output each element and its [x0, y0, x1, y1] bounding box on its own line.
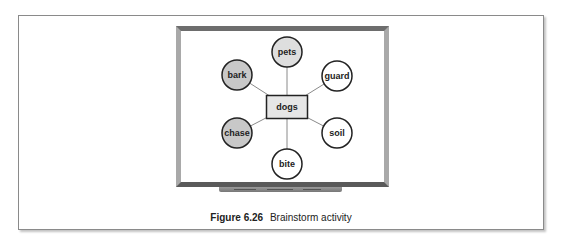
- svg-text:dogs: dogs: [276, 102, 298, 112]
- svg-text:soil: soil: [329, 128, 345, 138]
- figure-caption: Figure 6.26 Brainstorm activity: [0, 212, 562, 223]
- node-bark: bark: [222, 60, 252, 90]
- svg-text:bite: bite: [279, 159, 295, 169]
- caption-text: Brainstorm activity: [270, 212, 352, 223]
- node-guard: guard: [322, 61, 352, 91]
- svg-text:pets: pets: [278, 47, 297, 57]
- brainstorm-diagram: dogs petsbarkguardchasesoilbite: [0, 0, 562, 242]
- caption-number: Figure 6.26: [210, 212, 263, 223]
- node-soil: soil: [322, 118, 352, 148]
- svg-text:chase: chase: [224, 128, 250, 138]
- node-pets: pets: [272, 37, 302, 67]
- svg-text:bark: bark: [227, 70, 247, 80]
- center-node: dogs: [267, 96, 308, 119]
- svg-text:guard: guard: [324, 71, 349, 81]
- node-chase: chase: [222, 118, 252, 148]
- node-bite: bite: [272, 149, 302, 179]
